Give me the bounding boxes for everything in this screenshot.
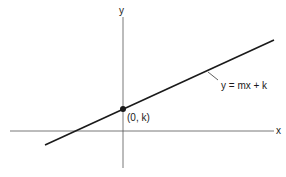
equation-leader xyxy=(208,72,218,80)
line-y-mx-k xyxy=(45,40,274,145)
intercept-point xyxy=(120,106,126,112)
intercept-label: (0, k) xyxy=(127,112,150,123)
y-axis-label: y xyxy=(119,5,124,16)
x-axis-label: x xyxy=(276,125,281,136)
equation-label: y = mx + k xyxy=(221,80,268,91)
line-diagram: y x (0, k) y = mx + k xyxy=(0,0,286,177)
